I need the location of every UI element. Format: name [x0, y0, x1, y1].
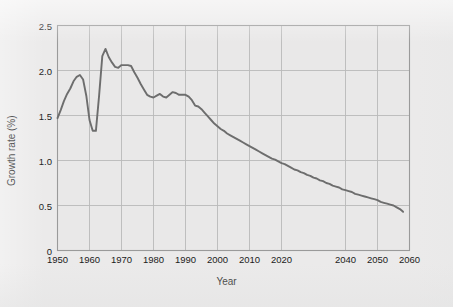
- x-tick-label: 1980: [143, 254, 164, 265]
- x-tick-label: 2010: [239, 254, 260, 265]
- x-tick-label: 2000: [207, 254, 228, 265]
- x-tick-label: 2060: [399, 254, 420, 265]
- y-tick-label: 2.5: [26, 20, 52, 31]
- x-tick-label: 1990: [175, 254, 196, 265]
- x-tick-label: 1970: [111, 254, 132, 265]
- x-axis-label: Year: [0, 276, 453, 287]
- y-axis-label: Growth rate (%): [6, 96, 20, 186]
- y-tick-label: 1.0: [26, 155, 52, 166]
- x-tick-label: 2040: [335, 254, 356, 265]
- x-tick-label: 1950: [47, 254, 68, 265]
- x-tick-label: 2020: [271, 254, 292, 265]
- y-tick-label: 0.5: [26, 200, 52, 211]
- y-axis-label-text: Growth rate (%): [6, 115, 17, 186]
- x-tick-label: 2050: [367, 254, 388, 265]
- y-tick-label: 1.5: [26, 110, 52, 121]
- growth-rate-chart: 00.51.01.52.02.5 19501960197019801990200…: [0, 0, 453, 307]
- y-tick-label: 2.0: [26, 65, 52, 76]
- x-tick-label: 1960: [79, 254, 100, 265]
